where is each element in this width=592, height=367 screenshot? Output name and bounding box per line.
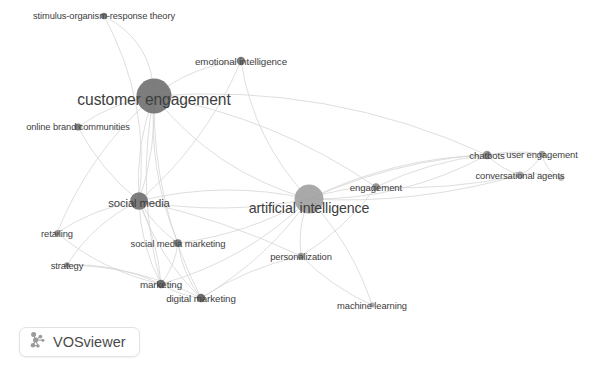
- network-node[interactable]: [64, 262, 70, 268]
- network-edge: [376, 175, 520, 188]
- network-canvas[interactable]: [0, 0, 592, 367]
- network-edge: [154, 96, 201, 298]
- network-node[interactable]: [74, 123, 81, 130]
- network-node[interactable]: [237, 57, 245, 65]
- network-edge: [301, 256, 372, 305]
- network-node[interactable]: [174, 239, 181, 246]
- network-node[interactable]: [369, 302, 374, 307]
- network-node[interactable]: [558, 175, 564, 181]
- vosviewer-logo-icon: [29, 331, 46, 353]
- network-edge: [78, 127, 139, 201]
- network-edge: [241, 61, 309, 199]
- vosviewer-visualization[interactable]: stimulus-organism-response theoryemotion…: [0, 0, 592, 367]
- network-node[interactable]: [539, 151, 546, 158]
- network-edge: [154, 96, 309, 199]
- network-edge: [67, 265, 201, 298]
- network-edge: [520, 154, 542, 175]
- network-node[interactable]: [137, 79, 172, 114]
- vosviewer-badge-label: VOSviewer: [53, 334, 126, 350]
- vosviewer-badge[interactable]: VOSviewer: [19, 327, 140, 357]
- network-node[interactable]: [298, 253, 304, 259]
- network-edge: [154, 96, 376, 187]
- network-edge: [487, 155, 520, 175]
- network-node[interactable]: [483, 151, 492, 160]
- network-node[interactable]: [101, 13, 107, 19]
- network-node[interactable]: [372, 183, 380, 191]
- network-edge: [153, 96, 178, 243]
- edges-layer: [57, 16, 561, 305]
- network-edge: [67, 201, 139, 265]
- network-edge: [67, 265, 161, 284]
- network-edge: [178, 243, 201, 298]
- network-node[interactable]: [157, 280, 166, 289]
- network-node[interactable]: [130, 192, 148, 210]
- network-edge: [161, 243, 178, 284]
- network-node[interactable]: [54, 230, 60, 236]
- network-node[interactable]: [295, 185, 324, 214]
- network-edge: [139, 201, 301, 256]
- network-edge: [178, 199, 309, 243]
- network-edge: [309, 199, 372, 305]
- network-node[interactable]: [197, 294, 206, 303]
- network-node[interactable]: [516, 171, 523, 178]
- network-edge: [309, 154, 542, 199]
